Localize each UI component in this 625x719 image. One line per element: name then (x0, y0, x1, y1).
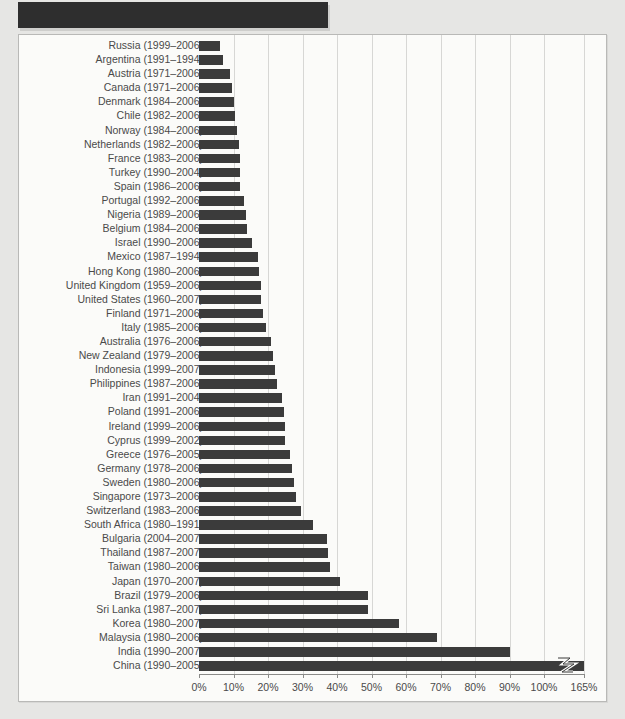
bar-row: New Zealand (1979–2006) (19, 349, 606, 363)
category-label: Finland (1971–2006) (106, 307, 203, 321)
category-label: France (1983–2006) (108, 152, 203, 166)
bar-row: Mexico (1987–1994) (19, 250, 606, 264)
bar (199, 196, 244, 206)
bar (199, 69, 230, 79)
x-tick-mark (406, 674, 407, 678)
x-tick-mark (234, 674, 235, 678)
bar-row: Finland (1971–2006) (19, 307, 606, 321)
category-label: United Kingdom (1959–2006) (66, 279, 203, 293)
bar (199, 83, 232, 93)
category-label: Japan (1970–2007) (112, 575, 203, 589)
x-tick-label: 10% (223, 681, 244, 693)
bar-row: Canada (1971–2006) (19, 81, 606, 95)
bar-row: Malaysia (1980–2006) (19, 631, 606, 645)
x-tick-label: 100% (531, 681, 558, 693)
category-label: Bulgaria (2004–2007) (102, 532, 203, 546)
bar (199, 548, 328, 558)
category-label: Canada (1971–2006) (104, 81, 203, 95)
bar (199, 252, 258, 262)
category-label: Cyprus (1999–2002) (107, 434, 203, 448)
bar-row: Singapore (1973–2006) (19, 490, 606, 504)
bar (199, 591, 368, 601)
category-label: New Zealand (1979–2006) (79, 349, 203, 363)
bar-row: Norway (1984–2006) (19, 124, 606, 138)
x-tick-label: 30% (292, 681, 313, 693)
bar-row: Russia (1999–2006) (19, 39, 606, 53)
bar-row: United States (1960–2007) (19, 293, 606, 307)
bar (199, 365, 275, 375)
x-tick-label: 40% (326, 681, 347, 693)
bar-row: Israel (1990–2006) (19, 236, 606, 250)
axis-break-zigzag-icon (554, 657, 580, 673)
bar-row: Taiwan (1980–2006) (19, 560, 606, 574)
bar-rows: Russia (1999–2006)Argentina (1991–1994)A… (19, 39, 606, 673)
bar (199, 436, 285, 446)
category-label: Hong Kong (1980–2006) (88, 265, 203, 279)
category-label: Norway (1984–2006) (105, 124, 203, 138)
category-label: Chile (1982–2006) (117, 109, 203, 123)
bar (199, 393, 282, 403)
bar-row: Indonesia (1999–2007) (19, 363, 606, 377)
bar (199, 562, 330, 572)
bar (199, 309, 263, 319)
bar-row: Argentina (1991–1994) (19, 53, 606, 67)
bar-row: Switzerland (1983–2006) (19, 504, 606, 518)
x-tick-mark (372, 674, 373, 678)
bar (199, 140, 239, 150)
bar (199, 55, 223, 65)
category-label: Greece (1976–2005) (106, 448, 203, 462)
bar (199, 182, 240, 192)
bar (199, 633, 437, 643)
category-label: Denmark (1984–2006) (98, 95, 203, 109)
x-tick-label: 70% (430, 681, 451, 693)
x-tick-mark (544, 674, 545, 678)
bar-row: Greece (1976–2005) (19, 448, 606, 462)
bar-row: Chile (1982–2006) (19, 109, 606, 123)
category-label: Korea (1980–2007) (113, 617, 204, 631)
bar (199, 407, 284, 417)
x-tick-label: 90% (499, 681, 520, 693)
bar-row: Poland (1991–2006) (19, 405, 606, 419)
bar (199, 281, 261, 291)
bar-row: Brazil (1979–2006) (19, 589, 606, 603)
category-label: Taiwan (1980–2006) (108, 560, 203, 574)
bar-row: Sri Lanka (1987–2007) (19, 603, 606, 617)
x-tick-mark (303, 674, 304, 678)
category-label: Iran (1991–2004) (122, 391, 203, 405)
category-label: Sri Lanka (1987–2007) (96, 603, 203, 617)
bar (199, 506, 301, 516)
x-tick-label: 165% (571, 681, 598, 693)
category-label: Nigeria (1989–2006) (107, 208, 203, 222)
bar (199, 351, 273, 361)
category-label: Argentina (1991–1994) (96, 53, 203, 67)
category-label: Ireland (1999–2006) (108, 420, 203, 434)
bar (199, 478, 294, 488)
bar (199, 267, 259, 277)
bar (199, 238, 252, 248)
bar (199, 661, 584, 671)
bar (199, 450, 290, 460)
bar (199, 97, 234, 107)
bar (199, 422, 285, 432)
bar (199, 168, 240, 178)
category-label: Russia (1999–2006) (108, 39, 203, 53)
chart-figure: Russia (1999–2006)Argentina (1991–1994)A… (18, 34, 607, 702)
bar (199, 126, 237, 136)
x-tick-label: 60% (395, 681, 416, 693)
bar (199, 224, 247, 234)
bar-row: Korea (1980–2007) (19, 617, 606, 631)
bar (199, 619, 399, 629)
bar-row: Ireland (1999–2006) (19, 420, 606, 434)
bar-row: Spain (1986–2006) (19, 180, 606, 194)
x-tick-mark (268, 674, 269, 678)
category-label: Philippines (1987–2006) (90, 377, 203, 391)
bar (199, 111, 235, 121)
category-label: Netherlands (1982–2006) (84, 138, 203, 152)
bar (199, 520, 313, 530)
bar-row: Portugal (1992–2006) (19, 194, 606, 208)
x-tick-mark (475, 674, 476, 678)
x-tick-mark (441, 674, 442, 678)
bar-row: Sweden (1980–2006) (19, 476, 606, 490)
bar-row: Denmark (1984–2006) (19, 95, 606, 109)
x-tick-mark (510, 674, 511, 678)
